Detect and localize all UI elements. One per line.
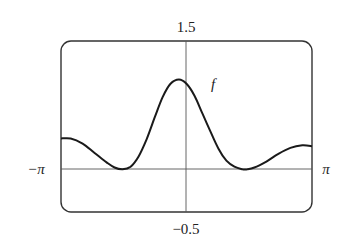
y-max-label: 1.5 <box>177 19 196 35</box>
x-min-label: −π <box>27 161 45 177</box>
function-curve-f <box>61 80 312 170</box>
x-max-label: π <box>322 161 330 177</box>
plot-frame <box>61 41 312 212</box>
curve-label-f: f <box>211 76 217 92</box>
chart-canvas: 1.5 −0.5 −π π f <box>0 0 343 241</box>
y-min-label: −0.5 <box>172 221 199 237</box>
